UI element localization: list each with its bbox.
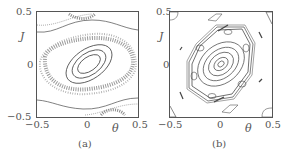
xtick-left: −0.5 <box>158 120 182 130</box>
xtick-mid: 0 <box>84 120 90 130</box>
x-axis-label: θ <box>245 122 252 135</box>
plot-area-a <box>36 11 139 118</box>
ytick-mid: 0 <box>27 60 33 70</box>
phase-portrait-a <box>37 12 138 117</box>
y-axis-label: J <box>20 30 24 43</box>
y-axis-label: J <box>159 30 163 43</box>
xtick-left: −0.5 <box>25 120 49 130</box>
panel-b: 0.5 J 0 <box>145 0 287 160</box>
caption-a: (a) <box>78 138 92 149</box>
ytick-top: 0.5 <box>16 7 32 17</box>
phase-portrait-b <box>170 12 272 117</box>
xtick-mid: 0 <box>217 120 223 130</box>
caption-b: (b) <box>212 138 226 149</box>
xtick-right: 0.5 <box>265 120 281 130</box>
x-axis-label: θ <box>112 122 119 135</box>
panel-a: 0.5 J 0 −0.5 −0.5 0 θ 0.5 (a) <box>0 0 145 160</box>
plot-area-b <box>169 11 273 118</box>
